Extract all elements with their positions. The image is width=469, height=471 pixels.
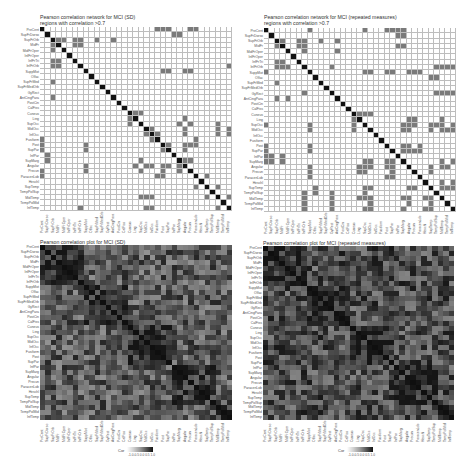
column-labels: PreCentSupFrDorsoSupFrOrbMidFrMidFrOperI… — [264, 214, 456, 234]
column-label: Precun — [188, 422, 193, 442]
column-label: Ling — [133, 213, 138, 233]
column-label: SupFrMedOrb — [100, 213, 105, 233]
subtitle-line: regions with correlation >0.7 — [264, 20, 397, 26]
column-label: InfTemp — [226, 422, 231, 442]
column-label: Precun — [188, 213, 193, 233]
column-labels: PreCentSupFrDorsoSupFrOrbMidFrMidFrOperI… — [263, 422, 454, 442]
row-label: InfTemp — [27, 414, 39, 419]
column-label: SupFrMedOrb — [324, 214, 329, 234]
correlation-heatmap-grid — [40, 245, 232, 420]
column-label: SupMarg — [177, 213, 182, 233]
panel-title: Pearson correlation network for MCI (rep… — [264, 14, 397, 26]
legend-ticks: -1.0-0.5 0.0 0.5 1.0 — [348, 453, 375, 457]
column-label: Olfac — [312, 422, 317, 442]
column-label: CalFiss — [346, 214, 351, 234]
column-label: MidOcc — [368, 214, 373, 234]
column-label: SupPar — [390, 214, 395, 234]
column-label: TempPolSup — [210, 422, 215, 442]
column-label: InfFrOrb — [301, 422, 306, 442]
column-label: Heschl — [199, 422, 204, 442]
column-label: CalFiss — [122, 213, 127, 233]
column-label: SupOcc — [361, 422, 366, 442]
column-label: PostCin — [339, 422, 344, 442]
subtitle-line: regions with correlation >0.7 — [40, 20, 135, 26]
column-label: InfTemp — [450, 214, 455, 234]
color-legend: Cor -1.0-0.5 0.0 0.5 1.0 — [338, 447, 373, 453]
column-label: Fusiform — [155, 422, 160, 442]
legend-colorbar — [127, 447, 153, 452]
legend-title: Cor — [338, 448, 344, 453]
column-label: AntCingPara — [111, 213, 116, 233]
column-label: MidOcc — [144, 213, 149, 233]
column-labels: PreCentSupFrDorsoSupFrOrbMidFrMidFrOperI… — [40, 422, 232, 442]
column-label: InfOcc — [372, 422, 377, 442]
legend-colorbar — [347, 447, 373, 452]
column-label: Precun — [410, 422, 415, 442]
column-label: SupPar — [166, 213, 171, 233]
heatmap-cell — [449, 415, 454, 420]
row-labels: PreCentSupFrDorsoSupFrOrbMidFrMidFrOperI… — [224, 28, 263, 212]
column-label: CalFiss — [122, 422, 127, 442]
column-label: InfFrOper — [290, 422, 295, 442]
column-labels: PreCentSupFrDorsoSupFrOrbMidFrMidFrOperI… — [40, 213, 232, 233]
network-heatmap-grid — [40, 27, 232, 211]
column-label: Precun — [412, 214, 417, 234]
column-label: SupMarg — [401, 214, 406, 234]
column-label: Heschl — [199, 213, 204, 233]
column-label: MidOcc — [144, 422, 149, 442]
panel-title: Pearson correlation network for MCI (SD)… — [40, 14, 135, 26]
column-label: InfTemp — [226, 213, 231, 233]
color-legend: Cor -1.0-0.5 0.0 0.5 1.0 — [118, 447, 153, 453]
column-label: Fusiform — [155, 213, 160, 233]
column-label: Fusiform — [379, 214, 384, 234]
column-label: Heschl — [421, 422, 426, 442]
column-label: TempPolSup — [210, 213, 215, 233]
column-label: AntCingPara — [335, 214, 340, 234]
row-labels: PreCentSupFrDorsoSupFrOrbMidFrMidFrOperI… — [223, 246, 262, 420]
heatmap-cell — [451, 207, 457, 212]
legend-ticks: -1.0-0.5 0.0 0.5 1.0 — [128, 453, 155, 457]
column-label: MidFr — [279, 422, 284, 442]
column-label: SupFrMedOrb — [100, 422, 105, 442]
column-label: Ling — [133, 422, 138, 442]
column-label: AntCingPara — [111, 422, 116, 442]
legend-title: Cor — [118, 448, 124, 453]
column-label: Cuneus — [350, 422, 355, 442]
row-label: InfTemp — [250, 415, 262, 420]
row-labels: PreCentSupFrDorsoSupFrOrbMidFrMidFrOperI… — [0, 27, 39, 211]
column-label: TempPolSup — [434, 214, 439, 234]
row-label: InfTemp — [27, 206, 39, 211]
column-label: InfTemp — [448, 422, 453, 442]
column-label: SupMarg — [399, 422, 404, 442]
column-label: TempPolSup — [432, 422, 437, 442]
row-label: InfTemp — [251, 207, 263, 212]
row-labels: PreCentSupFrDorsoSupFrOrbMidFrMidFrOperI… — [0, 245, 39, 420]
column-label: Ling — [357, 214, 362, 234]
network-heatmap-grid — [264, 28, 456, 212]
column-label: SupPar — [166, 422, 171, 442]
column-label: SupMarg — [177, 422, 182, 442]
correlation-heatmap-grid — [263, 246, 454, 420]
column-label: Heschl — [423, 214, 428, 234]
